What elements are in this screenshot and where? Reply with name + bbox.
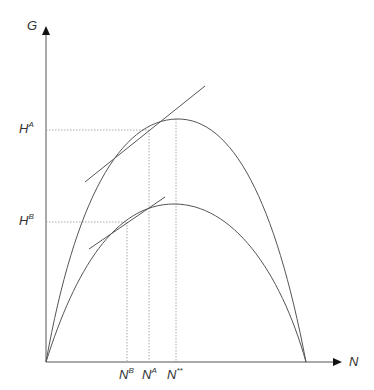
tangent-line-a <box>85 86 205 182</box>
x-axis-label: N <box>349 354 358 369</box>
tick-sup: A <box>28 120 33 129</box>
y-tick-ha: HA <box>19 121 34 136</box>
x-tick-na: NA <box>142 367 157 382</box>
diagram-canvas <box>0 0 374 390</box>
tick-base: H <box>19 121 28 136</box>
tick-sup: A <box>151 366 156 375</box>
x-tick-nb: NB <box>119 367 134 382</box>
tick-sup: B <box>28 212 33 221</box>
tick-sup: B <box>128 366 133 375</box>
x-axis-label-text: N <box>349 354 358 369</box>
y-axis-label-text: G <box>27 18 37 33</box>
y-axis-label: G <box>27 18 37 33</box>
tick-base: N <box>142 367 151 382</box>
tick-base: N <box>119 367 128 382</box>
tick-base: H <box>19 213 28 228</box>
y-tick-hb: HB <box>19 213 34 228</box>
x-tick-nstar: N** <box>167 367 183 382</box>
tick-base: N <box>167 367 176 382</box>
y-axis-arrow-icon <box>42 26 50 35</box>
tick-sup: ** <box>176 366 182 375</box>
x-axis-arrow-icon <box>333 358 342 366</box>
